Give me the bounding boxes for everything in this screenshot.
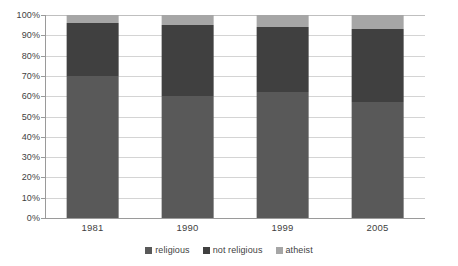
bar-segment-not-religious[interactable]	[161, 25, 214, 96]
bar-segment-not-religious[interactable]	[256, 27, 309, 92]
bar-segment-religious[interactable]	[161, 96, 214, 218]
bars-layer	[45, 15, 425, 218]
y-axis-tick-label: 10%	[22, 193, 40, 203]
bar-stack[interactable]	[351, 15, 404, 218]
gridline	[45, 218, 425, 219]
y-axis-tick-label: 70%	[22, 71, 40, 81]
plot-area	[45, 15, 425, 218]
bar-segment-religious[interactable]	[351, 102, 404, 218]
bar-stack[interactable]	[256, 15, 309, 218]
x-axis-category-label: 1990	[140, 222, 235, 238]
y-axis-tick-label: 20%	[22, 172, 40, 182]
y-axis-tick-label: 50%	[22, 112, 40, 122]
bar-segment-atheist[interactable]	[161, 15, 214, 25]
bar-segment-not-religious[interactable]	[66, 23, 119, 76]
bar-segment-atheist[interactable]	[66, 15, 119, 23]
bar-stack[interactable]	[66, 15, 119, 218]
legend-swatch-icon	[276, 247, 283, 254]
y-axis-tick-label: 30%	[22, 152, 40, 162]
legend-swatch-icon	[203, 247, 210, 254]
y-axis-tick-label: 0%	[27, 213, 40, 223]
legend-label: not religious	[213, 245, 263, 255]
bar-segment-not-religious[interactable]	[351, 29, 404, 102]
y-axis-tick	[41, 218, 45, 219]
bar-slot	[45, 15, 140, 218]
y-axis-tick-label: 90%	[22, 30, 40, 40]
y-axis-tick-label: 80%	[22, 51, 40, 61]
bar-segment-atheist[interactable]	[351, 15, 404, 29]
y-axis-tick-label: 40%	[22, 132, 40, 142]
stacked-bar-chart: 100%90%80%70%60%50%40%30%20%10%0% 198119…	[0, 0, 458, 266]
legend-item-religious[interactable]: religious	[145, 245, 189, 255]
x-axis-category-label: 1981	[45, 222, 140, 238]
bar-slot	[140, 15, 235, 218]
y-axis-labels: 100%90%80%70%60%50%40%30%20%10%0%	[0, 15, 40, 218]
legend-item-not-religious[interactable]: not religious	[203, 245, 263, 255]
bar-segment-atheist[interactable]	[256, 15, 309, 27]
bar-slot	[235, 15, 330, 218]
legend-label: religious	[155, 245, 189, 255]
x-axis-labels: 1981199019992005	[45, 222, 425, 238]
bar-segment-religious[interactable]	[256, 92, 309, 218]
bar-segment-religious[interactable]	[66, 76, 119, 218]
y-axis-tick-label: 60%	[22, 91, 40, 101]
bar-slot	[330, 15, 425, 218]
legend-swatch-icon	[145, 247, 152, 254]
bar-stack[interactable]	[161, 15, 214, 218]
x-axis-category-label: 1999	[235, 222, 330, 238]
chart-legend: religiousnot religiousatheist	[0, 245, 458, 255]
legend-item-atheist[interactable]: atheist	[276, 245, 313, 255]
y-axis-tick-label: 100%	[17, 10, 40, 20]
legend-label: atheist	[286, 245, 313, 255]
x-axis-category-label: 2005	[330, 222, 425, 238]
